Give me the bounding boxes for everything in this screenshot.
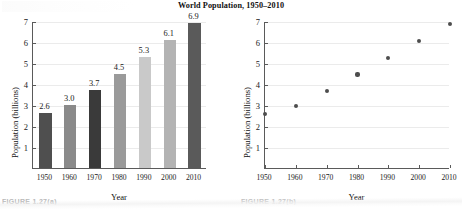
bar-chart-y-tick-label: 4: [10, 81, 28, 90]
scatter-chart-x-tick-label: 1950: [251, 174, 277, 182]
scatter-chart-x-tick: [358, 165, 359, 168]
bar-chart-y-tick: [33, 22, 36, 23]
bar-chart-y-tick-label: 1: [10, 144, 28, 153]
bar[interactable]: [89, 90, 101, 168]
scatter-chart-gridline: [265, 148, 449, 149]
bar-chart-y-tick: [33, 127, 36, 128]
scatter-chart-x-tick: [296, 165, 297, 168]
bar[interactable]: [64, 105, 76, 168]
scatter-chart-x-tick-label: 1990: [374, 174, 400, 182]
scatter-point[interactable]: [325, 89, 329, 93]
bar-value-label: 6.1: [156, 30, 182, 38]
bar-chart-y-tick: [33, 85, 36, 86]
scatter-chart-y-tick-label: 1: [242, 144, 260, 153]
bar-chart-x-tick-label: 2000: [156, 174, 182, 182]
bar[interactable]: [188, 23, 200, 168]
figure-page: World Population, 1950–2010 Population (…: [0, 0, 462, 218]
bar-value-label: 4.5: [106, 64, 132, 72]
bar-chart: Population (billions) Year FIGURE 1.27(a…: [0, 14, 231, 200]
scatter-chart-x-tick-label: 1970: [313, 174, 339, 182]
scatter-point[interactable]: [386, 56, 390, 60]
bar-chart-gridline: [33, 43, 206, 44]
scatter-chart-y-tick: [265, 43, 268, 44]
bar-chart-y-tick-label: 7: [10, 18, 28, 27]
scatter-chart-gridline: [265, 64, 449, 65]
scatter-chart-y-tick-label: 4: [242, 81, 260, 90]
scatter-chart-y-tick-label: 3: [242, 102, 260, 111]
bar-chart-x-tick-label: 2010: [181, 174, 207, 182]
bar-value-label: 6.9: [181, 13, 207, 21]
scatter-chart-y-tick: [265, 64, 268, 65]
scatter-chart-gridline: [265, 22, 449, 23]
scatter-chart-x-tick-label: 1960: [282, 174, 308, 182]
scatter-chart-y-tick: [265, 22, 268, 23]
scatter-point[interactable]: [355, 72, 359, 76]
bar-value-label: 2.6: [31, 103, 57, 111]
scatter-chart: Population (billions) Year FIGURE 1.27(b…: [231, 14, 462, 200]
scatter-point[interactable]: [448, 22, 452, 26]
scatter-chart-gridline: [265, 127, 449, 128]
scatter-point[interactable]: [263, 112, 267, 116]
scatter-chart-y-tick: [265, 106, 268, 107]
scatter-chart-gridline: [265, 85, 449, 86]
bar[interactable]: [139, 57, 151, 168]
scatter-chart-x-tick: [388, 165, 389, 168]
scatter-chart-y-tick: [265, 127, 268, 128]
bar-chart-x-tick-label: 1970: [81, 174, 107, 182]
bar-chart-y-tick-label: 6: [10, 39, 28, 48]
scatter-chart-x-tick: [450, 165, 451, 168]
scatter-chart-x-tick: [327, 165, 328, 168]
scatter-chart-x-tick-label: 2010: [436, 174, 462, 182]
bar-chart-x-tick-label: 1980: [106, 174, 132, 182]
scatter-chart-y-tick-label: 5: [242, 60, 260, 69]
bar[interactable]: [39, 113, 51, 168]
bar-chart-y-tick-label: 5: [10, 60, 28, 69]
scatter-point[interactable]: [294, 104, 298, 108]
scatter-chart-x-tick-label: 1980: [344, 174, 370, 182]
bar-value-label: 3.0: [56, 95, 82, 103]
scatter-chart-y-tick-label: 2: [242, 123, 260, 132]
bar-chart-y-tick-label: 2: [10, 123, 28, 132]
scatter-chart-x-tick: [419, 165, 420, 168]
scatter-chart-plot-area: [264, 22, 449, 169]
figure-title: World Population, 1950–2010: [0, 1, 462, 10]
scatter-chart-y-tick-label: 7: [242, 18, 260, 27]
scatter-chart-y-tick-label: 6: [242, 39, 260, 48]
bar-chart-x-tick-label: 1960: [56, 174, 82, 182]
bar[interactable]: [164, 40, 176, 168]
scatter-chart-x-tick-label: 2000: [405, 174, 431, 182]
bar-chart-x-tick-label: 1950: [31, 174, 57, 182]
bar[interactable]: [114, 74, 126, 169]
bar-chart-y-tick: [33, 43, 36, 44]
scatter-chart-gridline: [265, 106, 449, 107]
bar-value-label: 3.7: [81, 80, 107, 88]
bar-chart-x-tick-label: 1990: [131, 174, 157, 182]
bar-chart-gridline: [33, 22, 206, 23]
bar-chart-y-tick: [33, 64, 36, 65]
bar-chart-y-tick: [33, 148, 36, 149]
scatter-chart-y-tick: [265, 85, 268, 86]
scatter-chart-gridline: [265, 43, 449, 44]
scatter-chart-x-tick: [265, 165, 266, 168]
bar-chart-y-tick-label: 3: [10, 102, 28, 111]
bar-value-label: 5.3: [131, 47, 157, 55]
scatter-chart-y-tick: [265, 148, 268, 149]
